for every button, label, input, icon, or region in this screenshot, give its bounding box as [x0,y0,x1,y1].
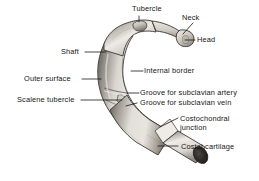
label-groove-subclavian-artery: Groove for subclavian artery [140,88,237,97]
label-shaft: Shaft [61,47,79,56]
label-scalene-tubercle: Scalene tubercle [17,95,74,104]
label-costal-cartilage: Costal cartilage [181,142,234,151]
label-costochondral-junction: Costochondral junction [180,114,240,132]
label-tubercle: Tubercle [132,4,162,13]
label-head: Head [197,35,215,44]
label-groove-subclavian-vein: Groove for subclavian vein [140,98,231,107]
tubercle [133,21,147,31]
rib-superior-arch [104,20,156,56]
label-outer-surface: Outer surface [24,74,71,83]
head-articular-facet [182,35,188,43]
label-internal-border: Internal border [144,66,194,75]
rib-anatomy-figure: Tubercle Neck Head Shaft Internal border… [0,0,259,181]
label-neck: Neck [182,13,199,22]
